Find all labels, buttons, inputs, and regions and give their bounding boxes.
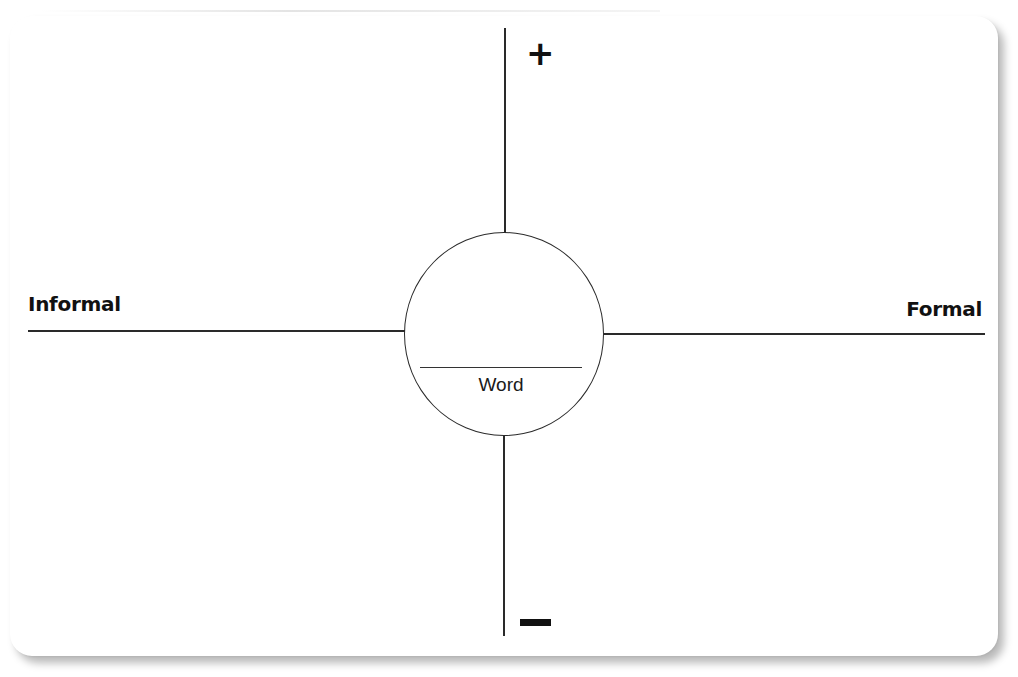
cropped-header-fragment bbox=[40, 10, 660, 12]
horizontal-axis-left bbox=[28, 330, 405, 332]
center-circle bbox=[404, 232, 604, 436]
informal-label: Informal bbox=[28, 292, 121, 316]
formal-label: Formal bbox=[906, 297, 982, 321]
word-writing-line bbox=[420, 367, 582, 368]
plus-icon: + bbox=[526, 36, 555, 70]
horizontal-axis-right bbox=[604, 333, 985, 335]
center-word-label: Word bbox=[420, 374, 582, 396]
vertical-axis-bottom bbox=[503, 436, 505, 636]
vertical-axis-top bbox=[504, 28, 506, 233]
minus-icon bbox=[520, 619, 551, 626]
